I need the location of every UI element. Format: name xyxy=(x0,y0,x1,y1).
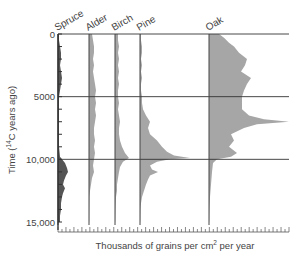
y-tick-label: 5000 xyxy=(34,91,55,102)
area-oak xyxy=(209,34,289,222)
taxon-label-birch: Birch xyxy=(110,12,135,33)
y-tick-label: 10,000 xyxy=(26,154,55,165)
area-spruce xyxy=(58,34,68,222)
pollen-areas xyxy=(58,34,289,222)
area-pine xyxy=(140,34,190,222)
x-axis-title: Thousands of grains per cm2 per year xyxy=(96,239,255,251)
area-alder xyxy=(89,34,96,222)
area-birch xyxy=(115,34,129,222)
y-axis: 0500010,00015,000 xyxy=(26,29,62,231)
taxon-label-oak: Oak xyxy=(204,14,226,33)
taxon-labels: SpruceAlderBirchPineOak xyxy=(53,7,226,33)
taxon-label-pine: Pine xyxy=(135,13,158,33)
pollen-diagram-chart: 0500010,00015,000 SpruceAlderBirchPineOa… xyxy=(0,0,304,262)
taxon-label-spruce: Spruce xyxy=(53,7,86,33)
taxon-baselines xyxy=(58,34,209,225)
x-axis xyxy=(58,227,289,232)
y-axis-title: Time (14C years ago) xyxy=(5,86,17,174)
y-tick-label: 15,000 xyxy=(26,217,55,228)
y-tick-label: 0 xyxy=(50,29,55,40)
taxon-label-alder: Alder xyxy=(84,11,110,33)
